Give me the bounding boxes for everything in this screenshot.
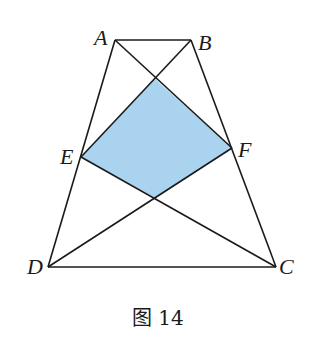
shaded-quadrilateral (81, 79, 232, 198)
label-A: A (92, 25, 108, 50)
figure-caption: 图 14 (132, 306, 184, 330)
label-D: D (26, 254, 43, 279)
label-C: C (279, 254, 294, 279)
label-E: E (59, 144, 74, 169)
label-B: B (198, 30, 211, 55)
trapezoid-diagram: A B E F D C 图 14 (0, 0, 318, 345)
label-F: F (237, 137, 252, 162)
